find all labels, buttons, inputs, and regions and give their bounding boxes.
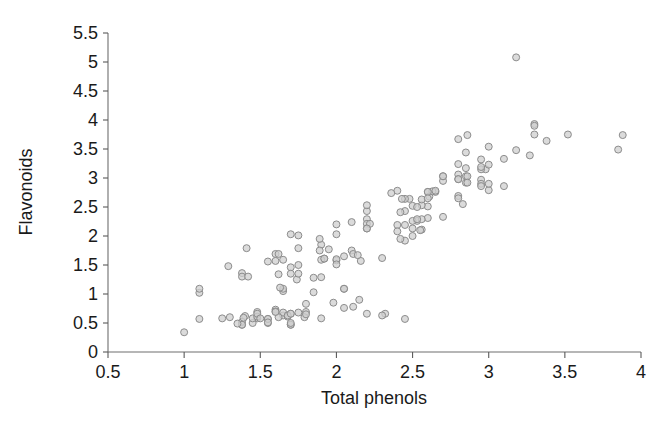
data-point xyxy=(295,309,302,316)
plot-canvas: 00.511.522.533.544.555.5 Flavonoids 0.51… xyxy=(0,0,663,428)
data-points-layer xyxy=(181,54,627,336)
data-point xyxy=(455,161,462,168)
y-tick-label: 2.5 xyxy=(73,197,98,217)
y-tick-label: 1 xyxy=(88,284,98,304)
data-point xyxy=(350,303,357,310)
data-point xyxy=(462,149,469,156)
data-point xyxy=(485,161,492,168)
data-point xyxy=(341,304,348,311)
data-point xyxy=(531,122,538,129)
data-point xyxy=(394,228,401,235)
data-point xyxy=(341,253,348,260)
y-tick-marks xyxy=(103,33,108,352)
x-tick-label: 3.5 xyxy=(552,362,577,382)
data-point xyxy=(272,308,279,315)
data-point xyxy=(275,271,282,278)
data-point xyxy=(424,195,431,202)
data-point xyxy=(302,300,309,307)
data-point xyxy=(543,137,550,144)
data-point xyxy=(316,247,323,254)
y-tick-label: 4.5 xyxy=(73,81,98,101)
data-point xyxy=(398,195,405,202)
data-point xyxy=(500,183,507,190)
data-point xyxy=(464,179,471,186)
data-point xyxy=(363,202,370,209)
y-tick-labels: 00.511.522.533.544.555.5 xyxy=(73,23,98,362)
data-point xyxy=(287,310,294,317)
data-point xyxy=(287,231,294,238)
data-point xyxy=(295,245,302,252)
data-point xyxy=(225,263,232,270)
data-point xyxy=(240,314,247,321)
data-point xyxy=(513,54,520,61)
x-tick-label: 3 xyxy=(484,362,494,382)
data-point xyxy=(363,225,370,232)
y-tick-label: 5.5 xyxy=(73,23,98,43)
data-point xyxy=(455,136,462,143)
x-tick-label: 0.5 xyxy=(95,362,120,382)
data-point xyxy=(485,143,492,150)
data-point xyxy=(234,320,241,327)
data-point xyxy=(401,315,408,322)
data-point xyxy=(264,258,271,265)
data-point xyxy=(356,296,363,303)
x-tick-label: 4 xyxy=(636,362,646,382)
data-point xyxy=(341,285,348,292)
scatter-chart-figure: 00.511.522.533.544.555.5 Flavonoids 0.51… xyxy=(0,0,663,428)
data-point xyxy=(333,221,340,228)
data-point xyxy=(455,176,462,183)
x-tick-marks xyxy=(108,352,641,358)
data-point xyxy=(330,299,337,306)
y-tick-label: 2 xyxy=(88,226,98,246)
y-tick-label: 3 xyxy=(88,168,98,188)
y-tick-label: 3.5 xyxy=(73,139,98,159)
y-tick-label: 5 xyxy=(88,52,98,72)
data-point xyxy=(310,274,317,281)
data-point xyxy=(333,231,340,238)
data-point xyxy=(348,219,355,226)
x-tick-label: 1 xyxy=(179,362,189,382)
y-tick-label: 0.5 xyxy=(73,313,98,333)
x-tick-label: 2 xyxy=(331,362,341,382)
data-point xyxy=(243,245,250,252)
data-point xyxy=(478,156,485,163)
data-point xyxy=(478,163,485,170)
data-point xyxy=(181,329,188,336)
data-point xyxy=(196,315,203,322)
x-tick-labels: 0.511.522.533.54 xyxy=(95,362,646,382)
data-point xyxy=(264,319,271,326)
data-point xyxy=(485,180,492,187)
data-point xyxy=(440,173,447,180)
data-point xyxy=(295,232,302,239)
data-point xyxy=(513,147,520,154)
y-axis-group: 00.511.522.533.544.555.5 Flavonoids xyxy=(16,23,108,362)
data-point xyxy=(500,155,507,162)
data-point xyxy=(615,146,622,153)
data-point xyxy=(257,315,264,322)
x-tick-label: 1.5 xyxy=(248,362,273,382)
data-point xyxy=(409,225,416,232)
y-tick-label: 0 xyxy=(88,342,98,362)
y-axis-title: Flavonoids xyxy=(16,148,36,235)
x-tick-label: 2.5 xyxy=(400,362,425,382)
data-point xyxy=(245,273,252,280)
data-point xyxy=(619,132,626,139)
data-point xyxy=(409,233,416,240)
data-point xyxy=(295,262,302,269)
data-point xyxy=(295,270,302,277)
data-point xyxy=(414,204,421,211)
data-point xyxy=(564,131,571,138)
data-point xyxy=(414,216,421,223)
data-point xyxy=(196,285,203,292)
y-tick-label: 1.5 xyxy=(73,255,98,275)
data-point xyxy=(277,284,284,291)
data-point xyxy=(226,314,233,321)
data-point xyxy=(401,221,408,228)
data-point xyxy=(417,227,424,234)
data-point xyxy=(379,255,386,262)
data-point xyxy=(325,246,332,253)
x-axis-group: 0.511.522.533.54 Total phenols xyxy=(95,352,646,408)
data-point xyxy=(321,255,328,262)
data-point xyxy=(363,310,370,317)
data-point xyxy=(526,152,533,159)
